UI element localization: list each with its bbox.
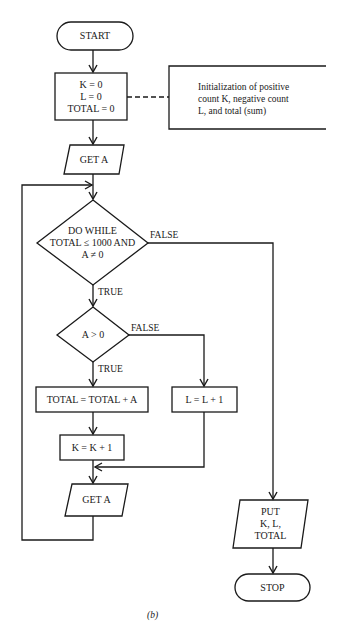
figure-caption: (b) (147, 610, 158, 621)
get-a-1-label: GET A (80, 154, 108, 166)
init-label: K = 0 L = 0 TOTAL = 0 (67, 79, 114, 115)
l-inc-label: L = L + 1 (186, 394, 224, 406)
k-inc-process: K = K + 1 (60, 435, 124, 460)
put-label: PUT K, L, TOTAL (255, 506, 287, 542)
a-gt-0-decision: A > 0 (57, 328, 129, 342)
start-label: START (80, 30, 110, 42)
do-while-label: DO WHILE TOTAL ≤ 1000 AND A ≠ 0 (50, 225, 136, 261)
stop-label: STOP (260, 582, 284, 594)
do-while-decision: DO WHILE TOTAL ≤ 1000 AND A ≠ 0 (37, 222, 148, 264)
l-inc-process: L = L + 1 (172, 387, 237, 412)
total-add-label: TOTAL = TOTAL + A (47, 394, 138, 406)
total-add-process: TOTAL = TOTAL + A (36, 387, 148, 412)
k-inc-label: K = K + 1 (72, 442, 113, 454)
cond-false-label: FALSE (131, 323, 159, 334)
initialization-annotation: Initialization of positive count K, nega… (198, 81, 289, 117)
while-false-label: FALSE (150, 230, 178, 241)
start-terminal: START (57, 22, 133, 50)
init-process: K = 0 L = 0 TOTAL = 0 (55, 73, 127, 120)
get-a-input-2: GET A (65, 484, 128, 516)
stop-terminal: STOP (235, 574, 310, 601)
a-gt-0-label: A > 0 (82, 329, 104, 341)
put-output: PUT K, L, TOTAL (233, 500, 308, 548)
while-true-label: TRUE (98, 287, 123, 298)
get-a-2-label: GET A (82, 494, 110, 506)
get-a-input-1: GET A (64, 145, 124, 174)
cond-true-label: TRUE (98, 364, 123, 375)
